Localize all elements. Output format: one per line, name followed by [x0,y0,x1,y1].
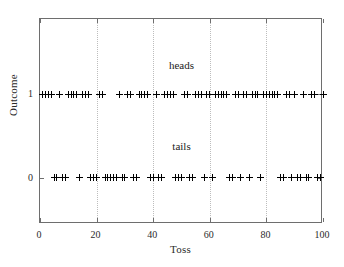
data-marker [218,91,225,98]
data-marker [102,174,109,181]
data-marker [229,174,236,181]
data-marker [195,91,202,98]
x-tick-label-100: 100 [315,229,330,240]
data-marker [73,91,80,98]
data-marker [144,91,151,98]
y-tick-0 [40,178,44,179]
data-marker [269,91,276,98]
data-marker [277,174,284,181]
data-marker [178,174,185,181]
data-marker [303,174,310,181]
data-marker [226,174,233,181]
data-marker [141,91,148,98]
data-marker [288,174,295,181]
data-marker [249,91,256,98]
x-tick-top-100 [323,19,324,23]
data-marker [297,174,304,181]
data-marker [198,91,205,98]
data-marker [113,174,120,181]
x-tick-label-40: 40 [147,229,157,240]
data-marker [220,91,227,98]
data-marker [172,174,179,181]
y-tick-label-0: 0 [17,171,33,182]
data-marker [155,174,162,181]
data-marker [133,174,140,181]
data-marker [79,91,86,98]
data-marker [116,91,123,98]
data-marker [254,91,261,98]
data-marker [175,174,182,181]
data-marker [70,91,77,98]
x-axis-title: Toss [39,243,322,255]
x-tick-top-20 [97,19,98,23]
data-marker [192,91,199,98]
coin-toss-figure: headstails 020406080100 01 Toss Outcome [0,0,344,267]
data-marker [136,91,143,98]
data-marker [53,174,60,181]
data-marker [158,174,165,181]
data-marker [308,91,315,98]
annotation-tails: tails [172,140,190,152]
data-marker [99,91,106,98]
data-marker [82,91,89,98]
data-marker [235,91,242,98]
data-marker [85,91,92,98]
data-marker [246,174,253,181]
data-marker [201,174,208,181]
data-marker [291,91,298,98]
data-marker [189,174,196,181]
plot-area: headstails [39,18,322,223]
data-marker [59,174,66,181]
x-tick-20 [97,218,98,222]
y-tick-1 [40,94,44,95]
data-marker [274,91,281,98]
data-marker [252,91,259,98]
x-tick-80 [266,218,267,222]
data-marker [305,174,312,181]
y-tick-label-1: 1 [17,88,33,99]
data-marker [127,91,134,98]
gridline-x-40 [153,19,154,222]
y-axis-title: Outcome [7,50,19,140]
data-marker [181,91,188,98]
data-marker [167,91,174,98]
data-marker [62,174,69,181]
data-marker [271,91,278,98]
data-marker [124,91,131,98]
x-tick-top-60 [210,19,211,23]
data-marker [212,91,219,98]
data-marker [138,91,145,98]
data-marker [215,91,222,98]
data-marker [51,174,58,181]
data-marker [300,91,307,98]
gridline-x-20 [97,19,98,222]
data-marker [65,91,72,98]
data-marker [164,91,171,98]
data-marker [237,174,244,181]
y-tick-right-0 [317,178,321,179]
data-marker [240,91,247,98]
x-tick-100 [323,218,324,222]
data-marker [76,174,83,181]
x-tick-top-0 [40,19,41,23]
data-marker [294,174,301,181]
data-marker [243,91,250,98]
data-marker [110,174,117,181]
x-tick-label-80: 80 [260,229,270,240]
data-marker [121,174,128,181]
data-marker [186,174,193,181]
data-marker [280,174,287,181]
x-tick-60 [210,218,211,222]
x-tick-top-40 [153,19,154,23]
x-tick-0 [40,218,41,222]
data-marker [184,91,191,98]
data-marker [68,91,75,98]
data-marker [56,91,63,98]
data-marker [45,91,52,98]
x-tick-40 [153,218,154,222]
x-tick-top-80 [266,19,267,23]
gridline-x-80 [266,19,267,222]
data-marker [107,174,114,181]
gridline-x-60 [210,19,211,222]
data-marker [104,174,111,181]
